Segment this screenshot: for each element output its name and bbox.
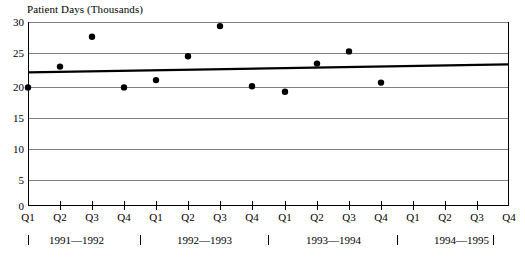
x-axis-tick-label-q2-1994: Q2 (432, 212, 458, 223)
fiscal-year-label-1992-1993: 1992—1993 (177, 235, 232, 246)
x-axis-tick-label-q1-1994: Q1 (400, 212, 426, 223)
chart-container: Patient Days (Thousands) 30 25 20 15 10 … (0, 0, 525, 267)
data-point (249, 83, 255, 89)
data-point (217, 23, 223, 29)
data-point (153, 77, 159, 83)
gridlines (28, 23, 508, 181)
data-point (121, 84, 127, 90)
data-point (89, 34, 95, 40)
data-point (25, 84, 31, 90)
x-axis-tick-label-q2-1992: Q2 (175, 212, 201, 223)
x-axis-tick-label-q4-1991: Q4 (111, 212, 137, 223)
fiscal-year-label-1993-1994: 1993—1994 (306, 235, 361, 246)
x-axis-tick-label-q3-1992: Q3 (207, 212, 233, 223)
x-axis-tick-label-q4-1992: Q4 (239, 212, 265, 223)
chart-plot-area (0, 0, 525, 267)
x-axis-tick-label-q2-1993: Q2 (304, 212, 330, 223)
x-axis-tick-label-q3-1991: Q3 (79, 212, 105, 223)
x-axis-tick-label-q4-1994: Q4 (496, 212, 522, 223)
data-point (57, 63, 63, 69)
x-axis-tick-label-q3-1994: Q3 (464, 212, 490, 223)
axis-lines (28, 22, 509, 206)
x-axis-tick-label-q1-1993: Q1 (272, 212, 298, 223)
x-axis-tick-label-q4-1993: Q4 (368, 212, 394, 223)
data-point (378, 79, 384, 85)
data-point (185, 53, 191, 59)
data-point-markers (25, 23, 384, 95)
fiscal-year-label-1994-1995: 1994—1995 (434, 235, 489, 246)
data-point (346, 48, 352, 54)
x-axis-tick-label-q2-1991: Q2 (47, 212, 73, 223)
x-axis-tick-label-q1-1991: Q1 (15, 212, 41, 223)
trend-line (28, 64, 508, 72)
data-point (282, 89, 288, 95)
x-axis-tick-label-q3-1993: Q3 (336, 212, 362, 223)
data-point (314, 60, 320, 66)
fiscal-year-label-1991-1992: 1991—1992 (49, 235, 104, 246)
x-axis-tick-label-q1-1992: Q1 (143, 212, 169, 223)
